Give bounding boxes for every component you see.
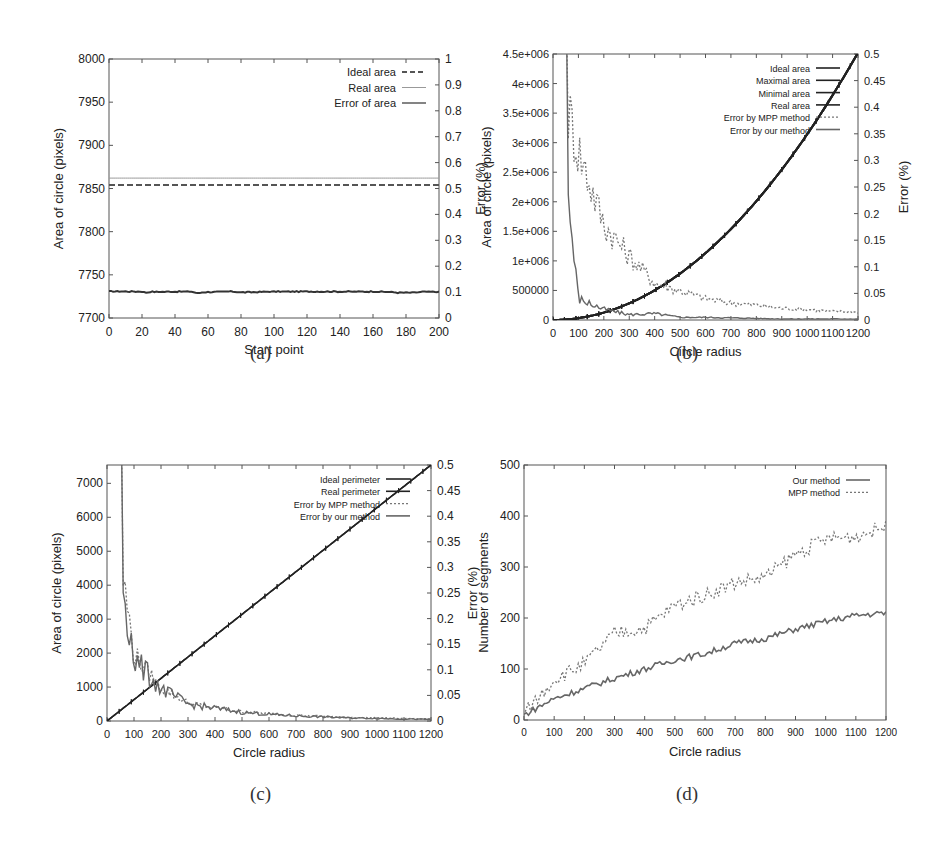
legend-label: Ideal perimeter — [320, 475, 380, 485]
y-axis-label: Area of circle (pixels) — [479, 126, 494, 247]
caption-d: (d) — [676, 783, 698, 805]
series-error-by-our-method — [107, 414, 431, 720]
y2-axis-label: Error (%) — [896, 161, 911, 214]
x-tick-label: 1100 — [821, 327, 845, 339]
x-tick-label: 800 — [314, 728, 332, 740]
x-tick-label: 400 — [636, 727, 653, 738]
series-minimal-area — [553, 53, 858, 320]
x-tick-label: 500 — [666, 727, 683, 738]
series-error-by-mpp-method — [107, 414, 431, 719]
series-mpp-method — [524, 520, 886, 716]
y2-tick-label: 1 — [445, 52, 452, 66]
legend-label: Ideal area — [770, 64, 810, 74]
x-axis-label: Circle radius — [233, 745, 306, 760]
x-tick-label: 100 — [264, 325, 284, 339]
x-tick-label: 500 — [233, 728, 251, 740]
x-tick-label: 1100 — [392, 728, 416, 740]
x-tick-label: 800 — [757, 727, 774, 738]
y-axis-label: Number of segments — [476, 532, 491, 653]
x-tick-label: 200 — [595, 327, 613, 339]
y2-tick-label: 0.5 — [437, 458, 454, 472]
x-tick-label: 1000 — [365, 728, 389, 740]
y2-tick-label: 0.4 — [864, 101, 879, 113]
y-tick-label: 7000 — [76, 476, 103, 490]
y-tick-label: 8000 — [78, 52, 105, 66]
x-tick-label: 100 — [546, 727, 563, 738]
x-tick-label: 600 — [696, 327, 714, 339]
y2-tick-label: 0.05 — [437, 688, 461, 702]
x-tick-label: 500 — [671, 327, 689, 339]
chart-d: 0100200300400500600700800900100011001200… — [476, 458, 898, 759]
y-tick-label: 7850 — [78, 182, 105, 196]
series-error-by-mpp-method — [553, 1, 858, 314]
y-tick-label: 4000 — [76, 578, 103, 592]
x-tick-label: 180 — [396, 325, 416, 339]
y-tick-label: 3000 — [76, 612, 103, 626]
y2-tick-label: 0.35 — [864, 128, 885, 140]
y-tick-label: 500000 — [512, 284, 549, 296]
y2-tick-label: 0.3 — [445, 233, 462, 247]
chart-a: 0204060801001201401601802007700775078007… — [51, 52, 488, 357]
x-tick-label: 900 — [773, 327, 791, 339]
x-tick-label: 400 — [206, 728, 224, 740]
y2-tick-label: 0.45 — [864, 75, 885, 87]
y-tick-label: 0 — [543, 314, 549, 326]
y-tick-label: 4e+006 — [512, 78, 549, 90]
x-tick-label: 140 — [330, 325, 350, 339]
y2-tick-label: 0.9 — [445, 78, 462, 92]
x-tick-label: 0 — [104, 728, 110, 740]
series-real-area — [553, 53, 858, 320]
x-tick-label: 200 — [576, 727, 593, 738]
y-tick-label: 1.5e+006 — [503, 225, 549, 237]
y2-tick-label: 0.6 — [445, 156, 462, 170]
y-tick-label: 7750 — [78, 268, 105, 282]
x-tick-label: 700 — [727, 727, 744, 738]
legend-label: Error by our method — [730, 126, 810, 136]
series-error-by-our-method — [553, 1, 858, 319]
y2-tick-label: 0 — [437, 714, 444, 728]
x-tick-label: 40 — [168, 325, 182, 339]
x-tick-label: 200 — [152, 728, 170, 740]
y-tick-label: 200 — [500, 611, 520, 625]
x-tick-label: 300 — [606, 727, 623, 738]
x-tick-label: 300 — [179, 728, 197, 740]
y-tick-label: 3e+006 — [512, 137, 549, 149]
y2-tick-label: 0.45 — [437, 484, 461, 498]
y-tick-label: 0 — [513, 713, 520, 727]
chart-b: 0100200300400500600700800900100011001200… — [479, 1, 911, 359]
y2-tick-label: 0 — [864, 314, 870, 326]
x-tick-label: 1200 — [419, 728, 443, 740]
y2-tick-label: 0.25 — [864, 181, 885, 193]
y-tick-label: 5000 — [76, 544, 103, 558]
y2-tick-label: 0.2 — [445, 259, 462, 273]
y2-tick-label: 0.5 — [445, 182, 462, 196]
x-tick-label: 900 — [787, 727, 804, 738]
y-tick-label: 2000 — [76, 646, 103, 660]
y-tick-label: 7700 — [78, 311, 105, 325]
x-tick-label: 1200 — [875, 727, 898, 738]
y-tick-label: 1e+006 — [512, 255, 549, 267]
y-tick-label: 0 — [96, 714, 103, 728]
caption-c: (c) — [250, 783, 271, 805]
x-tick-label: 300 — [620, 327, 638, 339]
x-tick-label: 100 — [569, 327, 587, 339]
x-tick-label: 60 — [201, 325, 215, 339]
x-tick-label: 80 — [234, 325, 248, 339]
y2-tick-label: 0.8 — [445, 104, 462, 118]
y-tick-label: 4.5e+006 — [503, 48, 549, 60]
y2-tick-label: 0.1 — [437, 663, 454, 677]
y-tick-label: 400 — [500, 509, 520, 523]
y2-tick-label: 0.1 — [864, 261, 879, 273]
x-tick-label: 0 — [550, 327, 556, 339]
y2-tick-label: 0 — [445, 311, 452, 325]
x-tick-label: 200 — [429, 325, 449, 339]
x-tick-label: 1000 — [815, 727, 838, 738]
x-tick-label: 400 — [645, 327, 663, 339]
y2-tick-label: 0.4 — [437, 509, 454, 523]
x-tick-label: 100 — [125, 728, 143, 740]
chart-c: 0100200300400500600700800900100011001200… — [49, 414, 480, 760]
y2-tick-label: 0.5 — [864, 48, 879, 60]
x-tick-label: 0 — [106, 325, 113, 339]
x-tick-label: 1100 — [845, 727, 867, 738]
legend-label: Real perimeter — [321, 487, 380, 497]
